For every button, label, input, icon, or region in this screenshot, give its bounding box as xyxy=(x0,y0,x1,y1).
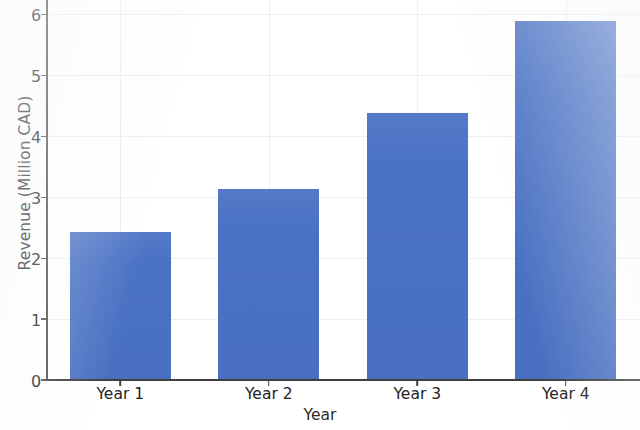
x-tick-label: Year 1 xyxy=(96,385,144,403)
x-tick-mark xyxy=(416,381,418,386)
x-tick-label: Year 2 xyxy=(245,385,293,403)
bar-year-2 xyxy=(218,189,319,381)
bar-chart-figure: 0123456 Year 1Year 2Year 3Year 4 Revenue… xyxy=(0,0,640,430)
x-tick-label: Year 4 xyxy=(542,385,590,403)
bar-year-4 xyxy=(515,21,616,381)
y-tick-label: 0 xyxy=(31,372,34,391)
bar-year-3 xyxy=(367,113,468,381)
x-tick-mark xyxy=(565,381,567,386)
bar-year-1 xyxy=(70,232,171,381)
x-tick-mark xyxy=(268,381,270,386)
x-axis-title: Year xyxy=(0,406,640,424)
y-axis-spine xyxy=(46,0,48,381)
y-tick-label: 6 xyxy=(31,6,34,25)
x-axis-spine xyxy=(46,379,640,381)
gridline-horizontal xyxy=(46,14,640,15)
x-tick-mark xyxy=(119,381,121,386)
plot-area: 0123456 xyxy=(46,0,640,381)
y-axis-title: Revenue (Million CAD) xyxy=(16,63,34,303)
y-tick-label: 1 xyxy=(31,311,34,330)
x-tick-label: Year 3 xyxy=(393,385,441,403)
